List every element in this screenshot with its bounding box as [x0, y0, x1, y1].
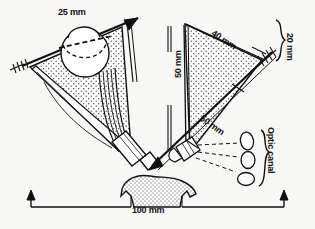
- left-instrument-tip: [112, 131, 158, 170]
- label-20mm: 20 mm: [285, 33, 295, 61]
- dim-25mm-leader: [127, 22, 137, 82]
- arrow-up-icon-left-baseline: [27, 190, 35, 200]
- optic-canal-openings: [238, 131, 256, 185]
- optic-canal-oval-inferior: [238, 173, 255, 186]
- optic-canal-oval-middle: [241, 152, 255, 169]
- diagram-canvas: [0, 0, 315, 229]
- label-100mm: 100 mm: [132, 205, 164, 215]
- curly-brace-icon-20mm: [276, 20, 285, 61]
- dim-40mm-tick: [252, 47, 266, 54]
- optic-canal-oval-superior: [239, 131, 255, 151]
- arrow-up-icon-right-baseline: [280, 190, 288, 200]
- arrow-feather-tail-icon: [10, 59, 28, 73]
- label-50mm-vertical: 50 mm: [173, 50, 183, 78]
- dim-50mm-vertical-ticks: [168, 26, 171, 150]
- nasal-structure-outline: [121, 176, 196, 207]
- orbital-dimensions-figure: 25 mm 40 mm 50 mm 50 mm 20 mm Optic cana…: [0, 0, 315, 229]
- label-25mm: 25 mm: [58, 7, 86, 17]
- cornea-dome: [68, 27, 100, 38]
- label-optic-canal: Optic canal: [266, 127, 276, 173]
- optic-canal-projection-lines: [196, 143, 240, 172]
- nasal-base-structure: [121, 176, 196, 207]
